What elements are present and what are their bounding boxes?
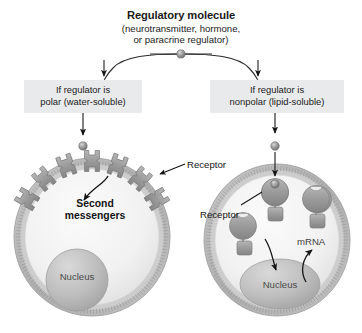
branch-label-polar: If regulator is polar (water-soluble) (24, 80, 142, 113)
right-receptor-label: Receptor (200, 209, 239, 220)
branch-descenders (83, 113, 275, 135)
left-receptor-label: Receptor (187, 159, 226, 170)
left-receptor-leader (160, 164, 185, 174)
branch-label-nonpolar: If regulator is nonpolar (lipid-soluble) (210, 80, 344, 113)
branch-connector (104, 50, 258, 80)
branch-polar-line-2: polar (water-soluble) (30, 96, 136, 108)
branch-nonpolar-line-1: If regulator is (216, 84, 338, 96)
mrna-label: mRNA (297, 236, 325, 247)
right-ligand-dot-outside (271, 142, 279, 150)
second-messengers-label: Second messengers (40, 198, 150, 223)
second-messengers-line-1: Second (76, 198, 114, 209)
branch-polar-line-1: If regulator is (30, 84, 136, 96)
second-messengers-line-2: messengers (65, 210, 126, 221)
right-nucleus-label: Nucleus (248, 279, 312, 290)
branch-nonpolar-line-2: nonpolar (lipid-soluble) (216, 96, 338, 108)
figure-canvas: Regulatory molecule (neurotransmitter, h… (0, 0, 362, 333)
regulatory-molecule-dot (177, 50, 185, 58)
left-cell (14, 142, 185, 316)
bound-ligand-dot (271, 180, 279, 188)
left-nucleus-label: Nucleus (45, 271, 109, 282)
left-ligand-dot (79, 142, 87, 150)
